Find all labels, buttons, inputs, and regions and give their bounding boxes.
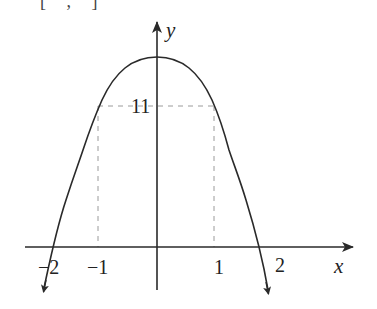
function-graph: y x 11 −2 −1 1 2 [0,0,377,309]
tick-label-1: 1 [214,256,224,278]
curve [44,57,268,290]
tick-label-neg1: −1 [87,256,108,278]
y-axis-label: y [164,18,176,42]
tick-label-11: 11 [131,95,150,117]
x-axis-label: x [333,254,344,278]
tick-label-2: 2 [275,254,285,276]
tick-label-neg2: −2 [38,256,59,278]
dashed-guides [98,106,214,247]
